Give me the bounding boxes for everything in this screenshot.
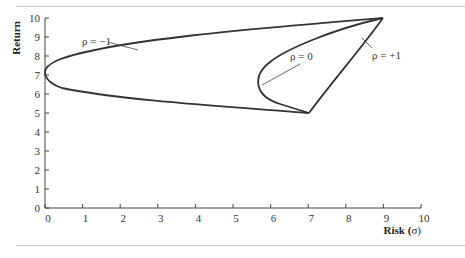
x-tick-label: 5 bbox=[233, 212, 239, 224]
curve-rho-pos1 bbox=[309, 18, 383, 113]
x-tick-label: 1 bbox=[83, 212, 89, 224]
x-tick-label: 8 bbox=[346, 212, 352, 224]
y-tick-label: 3 bbox=[35, 145, 41, 157]
y-ticks: 012345678910 bbox=[29, 12, 49, 214]
y-tick-label: 6 bbox=[35, 88, 41, 100]
y-tick-label: 8 bbox=[35, 50, 41, 62]
x-ticks: 012345678910 bbox=[45, 204, 430, 224]
x-tick-label: 2 bbox=[120, 212, 126, 224]
y-tick-label: 7 bbox=[35, 69, 41, 81]
y-tick-label: 4 bbox=[35, 126, 41, 138]
x-tick-label: 0 bbox=[45, 212, 51, 224]
y-tick-label: 10 bbox=[29, 12, 41, 24]
x-tick-label: 6 bbox=[271, 212, 277, 224]
label-rho-neg1: ρ = −1 bbox=[82, 35, 111, 47]
y-tick-label: 5 bbox=[35, 107, 41, 119]
y-axis-title: Return bbox=[10, 21, 22, 55]
y-tick-label: 1 bbox=[35, 183, 41, 195]
x-axis-title: Risk (σ) bbox=[384, 224, 422, 237]
x-tick-label: 7 bbox=[308, 212, 314, 224]
label-rho-pos1: ρ = +1 bbox=[372, 49, 401, 61]
x-tick-label: 4 bbox=[196, 212, 202, 224]
x-tick-label: 3 bbox=[158, 212, 164, 224]
leader-rho-0 bbox=[262, 64, 300, 85]
y-tick-label: 0 bbox=[35, 202, 41, 214]
x-tick-label: 10 bbox=[419, 212, 431, 224]
risk-return-chart: 012345678910 012345678910 Return Risk (σ… bbox=[0, 0, 465, 258]
label-rho-0: ρ = 0 bbox=[290, 50, 313, 62]
y-tick-label: 9 bbox=[35, 31, 41, 43]
x-tick-label: 9 bbox=[384, 212, 390, 224]
y-tick-label: 2 bbox=[35, 164, 41, 176]
